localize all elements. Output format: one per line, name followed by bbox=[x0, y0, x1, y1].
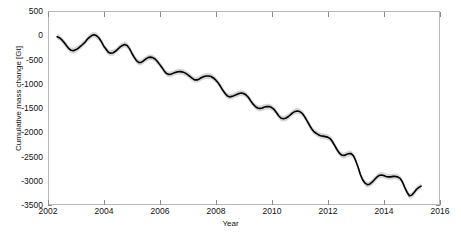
x-tick-mark bbox=[384, 200, 385, 205]
y-tick-label: -1500 bbox=[3, 104, 43, 113]
y-tick-label: -2000 bbox=[3, 128, 43, 137]
x-tick-mark-top bbox=[104, 12, 105, 17]
x-tick-mark bbox=[440, 200, 441, 205]
x-tick-mark bbox=[216, 200, 217, 205]
x-tick-mark-top bbox=[440, 12, 441, 17]
line-chart-svg bbox=[49, 12, 441, 206]
x-tick-mark-top bbox=[160, 12, 161, 17]
x-tick-mark bbox=[104, 200, 105, 205]
x-tick-mark bbox=[272, 200, 273, 205]
uncertainty-band bbox=[57, 32, 421, 199]
y-tick-label: -3000 bbox=[3, 177, 43, 186]
x-tick-label: 2012 bbox=[308, 207, 348, 216]
x-tick-label: 2010 bbox=[252, 207, 292, 216]
x-tick-label: 2014 bbox=[364, 207, 404, 216]
x-tick-mark-top bbox=[384, 12, 385, 17]
plot-area bbox=[48, 11, 440, 205]
x-axis-title: Year bbox=[0, 219, 461, 228]
x-tick-mark-top bbox=[328, 12, 329, 17]
y-tick-label: -500 bbox=[3, 56, 43, 65]
y-tick-label: 500 bbox=[3, 7, 43, 16]
x-tick-mark-top bbox=[48, 12, 49, 17]
x-tick-label: 2008 bbox=[196, 207, 236, 216]
y-tick-label: -1000 bbox=[3, 80, 43, 89]
x-tick-label: 2006 bbox=[140, 207, 180, 216]
cumulative-mass-change-line bbox=[57, 35, 421, 196]
x-tick-mark bbox=[328, 200, 329, 205]
y-tick-label: 0 bbox=[3, 31, 43, 40]
y-tick-label: -2500 bbox=[3, 153, 43, 162]
x-tick-label: 2004 bbox=[84, 207, 124, 216]
x-tick-mark bbox=[160, 200, 161, 205]
x-tick-label: 2016 bbox=[420, 207, 460, 216]
figure-container: Cumulative mass change [Gt] 5000-500-100… bbox=[0, 0, 461, 235]
x-tick-mark-top bbox=[216, 12, 217, 17]
x-tick-mark bbox=[48, 200, 49, 205]
x-tick-mark-top bbox=[272, 12, 273, 17]
x-tick-label: 2002 bbox=[28, 207, 68, 216]
